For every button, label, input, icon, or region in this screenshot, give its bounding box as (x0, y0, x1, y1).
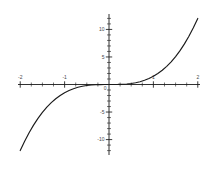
x-tick-label: -1 (62, 74, 67, 80)
x-tick-label: 2 (196, 74, 199, 80)
x-tick-label: -2 (18, 74, 23, 80)
y-tick-label: -10 (97, 136, 104, 142)
cubic-function-plot: -2-112-10-55100 (0, 0, 211, 170)
y-tick-label: -5 (100, 109, 105, 115)
y-tick-label: 5 (102, 54, 105, 60)
plot-canvas: -2-112-10-55100 (0, 0, 211, 170)
origin-label: 0 (104, 85, 107, 91)
y-tick-label: 10 (99, 26, 105, 32)
